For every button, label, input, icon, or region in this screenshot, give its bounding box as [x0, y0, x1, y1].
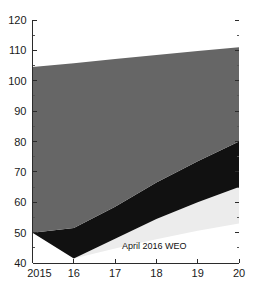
x-tick-label: 17 [109, 267, 121, 279]
area-chart: 405060708090100110120 20151617181920 201… [0, 0, 255, 297]
annotation-label-april-2016-weo: April 2016 WEO [122, 241, 187, 251]
y-tick-label: 80 [14, 136, 26, 148]
y-tick-label: 50 [14, 227, 26, 239]
y-tick-label: 120 [8, 14, 26, 26]
x-tick-label: 2015 [27, 267, 51, 279]
y-tick-label: 90 [14, 105, 26, 117]
y-tick-label: 100 [8, 75, 26, 87]
y-tick-label: 40 [14, 257, 26, 269]
x-tick-label: 16 [68, 267, 80, 279]
chart-bands [33, 47, 240, 258]
y-tick-label: 60 [14, 196, 26, 208]
y-tick-label: 110 [9, 44, 27, 56]
x-tick-label: 18 [150, 267, 162, 279]
x-axis-tick-labels: 20151617181920 [27, 267, 245, 279]
y-tick-label: 70 [14, 166, 26, 178]
y-axis-tick-labels: 405060708090100110120 [8, 14, 26, 269]
annotation-label-2014-weo: 2014 WEO [55, 47, 99, 57]
x-tick-label: 19 [192, 267, 204, 279]
chart-container: 405060708090100110120 20151617181920 201… [0, 0, 255, 297]
x-tick-label: 20 [233, 267, 245, 279]
